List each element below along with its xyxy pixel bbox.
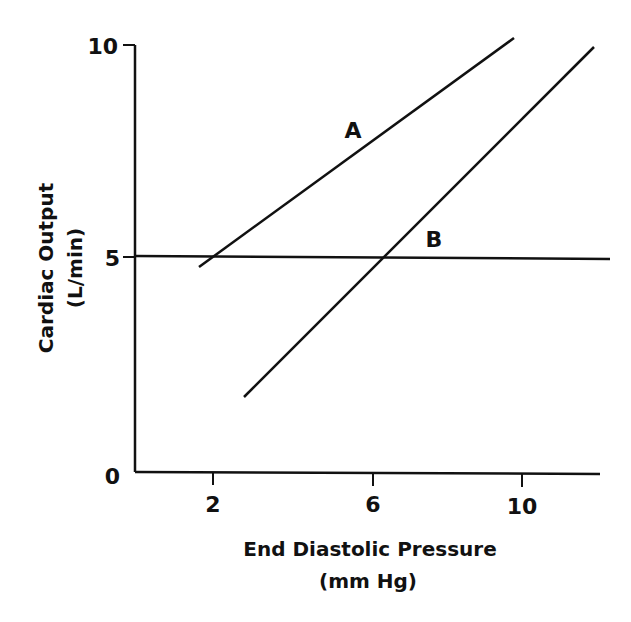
x-axis: [135, 472, 600, 474]
y-axis-units: (L/min): [63, 228, 87, 308]
y-axis-title: Cardiac Output: [34, 182, 58, 353]
chart: 10 5 0 2 6 10 A B End Diastolic Pressure…: [0, 0, 631, 622]
x-axis-units: (mm Hg): [319, 569, 417, 593]
curve-a: [199, 38, 514, 267]
y-tick-label-5: 5: [105, 246, 120, 271]
x-tick-label-2: 2: [205, 492, 220, 517]
curve-b-label: B: [426, 227, 443, 252]
curve-b: [244, 47, 594, 397]
curve-a-label: A: [344, 118, 361, 143]
chart-svg: 10 5 0 2 6 10 A B End Diastolic Pressure…: [0, 0, 631, 622]
reference-line-5: [135, 256, 610, 259]
x-tick-label-10: 10: [507, 494, 538, 519]
x-axis-title: End Diastolic Pressure: [243, 537, 496, 561]
y-tick-label-10: 10: [87, 34, 118, 59]
y-tick-label-0: 0: [105, 464, 120, 489]
x-tick-label-6: 6: [365, 492, 380, 517]
